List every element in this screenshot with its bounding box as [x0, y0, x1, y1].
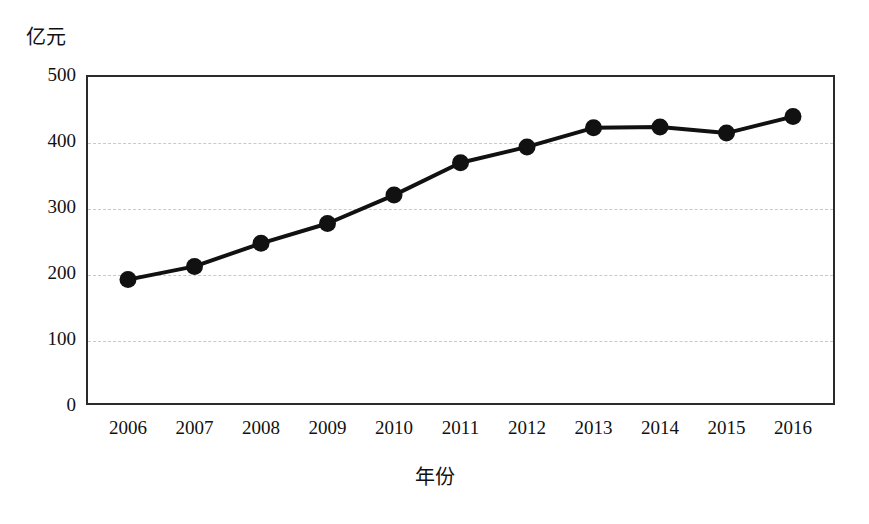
- x-axis-title: 年份: [0, 466, 869, 488]
- y-tick-label: 300: [14, 197, 76, 216]
- x-tick-label: 2009: [293, 418, 363, 437]
- plot-area-frame: [86, 75, 835, 405]
- x-tick-label: 2013: [558, 418, 628, 437]
- y-tick-label: 400: [14, 131, 76, 150]
- x-tick-label: 2015: [691, 418, 761, 437]
- x-tick-label: 2008: [226, 418, 296, 437]
- gridline-100: [88, 341, 833, 342]
- x-tick-label: 2010: [359, 418, 429, 437]
- line-chart-figure: 亿元 0100200300400500 20062007200820092010…: [0, 0, 869, 524]
- gridline-400: [88, 143, 833, 144]
- gridline-300: [88, 209, 833, 210]
- x-tick-label: 2016: [758, 418, 828, 437]
- x-tick-label: 2006: [93, 418, 163, 437]
- y-tick-label: 200: [14, 263, 76, 282]
- x-tick-label: 2012: [492, 418, 562, 437]
- y-tick-label: 500: [14, 65, 76, 84]
- x-tick-label: 2011: [426, 418, 496, 437]
- x-tick-label: 2007: [160, 418, 230, 437]
- y-tick-label: 0: [14, 395, 76, 414]
- x-tick-label: 2014: [625, 418, 695, 437]
- y-axis-tick-labels: 0100200300400500: [0, 0, 86, 524]
- y-tick-label: 100: [14, 329, 76, 348]
- gridline-200: [88, 275, 833, 276]
